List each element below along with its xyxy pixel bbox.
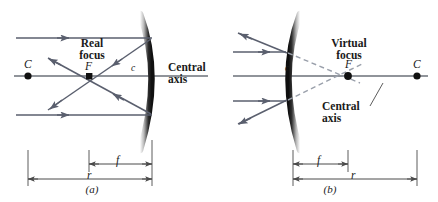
reflected-ray-lower-a [48,58,151,114]
radius-label-b: r [351,170,355,182]
reflected-ray-upper-tip-arrow-a [50,100,62,109]
panel-a-caption: (a) [62,184,122,195]
panel-b-caption: (b) [300,184,360,195]
center-of-curvature-dot-a [24,72,31,79]
mirror-vertex-label-b: c [285,64,289,74]
central-axis-label-b-line2: axis [322,113,360,125]
focal-point-label-a: F [85,61,92,73]
reflected-ray-upper-arrow-b [240,34,252,39]
reflected-ray-lower-tip-arrow-a [49,59,61,65]
focal-length-label-b: f [317,155,320,167]
real-focus-label-line1: Real [70,38,114,50]
central-axis-label-b: Central axis [322,101,360,124]
central-axis-label-a: Central axis [168,62,206,85]
figure-canvas [0,0,438,202]
center-of-curvature-label-a: C [24,59,32,71]
focal-length-label-a: f [116,155,119,167]
real-focus-label-line2: focus [70,50,114,62]
virtual-focus-label-line1: Virtual [323,38,375,50]
convex-mirror-arc [289,14,301,150]
focal-point-marker-b [344,72,352,80]
real-focus-label-a: Real focus [70,38,114,61]
mirror-vertex-label-a: c [131,64,135,74]
reflected-ray-lower-arrow-a [113,94,124,100]
central-axis-leader-b [370,83,383,106]
radius-label-a: r [87,170,91,182]
center-of-curvature-label-b: C [413,59,421,71]
center-of-curvature-dot-b [413,72,420,79]
concave-mirror-arc [140,14,152,150]
central-axis-label-a-line1: Central [168,62,206,74]
focal-point-marker-a [86,73,92,79]
mirror-focus-figure: Real focus F C c Central axis f r (a) Vi… [0,0,438,202]
reflected-ray-lower-arrow-b [239,118,251,124]
focal-point-label-b: F [345,59,352,71]
central-axis-label-b-line1: Central [322,101,360,113]
central-axis-label-a-line2: axis [168,74,206,86]
